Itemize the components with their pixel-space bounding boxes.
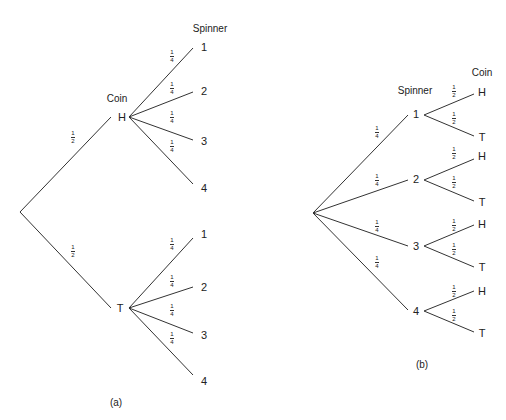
- prob-4t-b: 12: [452, 308, 456, 322]
- prob-t-a: 12: [71, 244, 75, 258]
- prob-3-b: 14: [375, 219, 379, 233]
- leaf-t3-a: 3: [201, 329, 207, 341]
- prob-h3-a: 14: [170, 110, 174, 124]
- prob-1h-b: 12: [452, 84, 456, 98]
- prob-1t-b: 12: [452, 111, 456, 125]
- leaf-4t-b: T: [479, 327, 486, 339]
- prob-3t-b: 12: [452, 242, 456, 256]
- node-3-b: 3: [413, 240, 419, 252]
- leaf-h4-a: 4: [201, 182, 207, 194]
- spinner-header-b: Spinner: [398, 85, 432, 96]
- leaf-t4-a: 4: [201, 375, 207, 387]
- leaf-3h-b: H: [478, 218, 486, 230]
- leaf-h2-a: 2: [201, 85, 207, 97]
- prob-4-b: 14: [375, 255, 379, 269]
- leaf-1t-b: T: [479, 131, 486, 143]
- node-2-b: 2: [413, 173, 419, 185]
- prob-h-a: 12: [71, 130, 75, 144]
- leaf-h1-a: 1: [201, 41, 207, 53]
- coin-header-b: Coin: [472, 67, 493, 78]
- prob-1-b: 14: [375, 125, 379, 139]
- prob-t1-a: 14: [170, 237, 174, 251]
- prob-4h-b: 12: [452, 284, 456, 298]
- coin-header-a: Coin: [107, 93, 128, 104]
- prob-2h-b: 12: [452, 146, 456, 160]
- caption-b: (b): [416, 359, 428, 370]
- prob-h4-a: 14: [170, 139, 174, 153]
- caption-a: (a): [110, 397, 122, 408]
- leaf-t2-a: 2: [201, 281, 207, 293]
- prob-2t-b: 12: [452, 175, 456, 189]
- node-1-b: 1: [413, 108, 419, 120]
- leaf-4h-b: H: [478, 285, 486, 297]
- spinner-header-a: Spinner: [193, 23, 227, 34]
- prob-h1-a: 14: [170, 49, 174, 63]
- node-4-b: 4: [413, 305, 419, 317]
- leaf-h3-a: 3: [201, 135, 207, 147]
- leaf-2t-b: T: [479, 196, 486, 208]
- node-h-a: H: [118, 111, 126, 123]
- prob-t3-a: 14: [170, 303, 174, 317]
- prob-2-b: 14: [375, 173, 379, 187]
- prob-h2-a: 14: [170, 81, 174, 95]
- leaf-1h-b: H: [478, 86, 486, 98]
- prob-t2-a: 14: [170, 274, 174, 288]
- leaf-t1-a: 1: [201, 228, 207, 240]
- tree-lines: [0, 0, 506, 420]
- leaf-2h-b: H: [478, 150, 486, 162]
- node-t-a: T: [117, 302, 124, 314]
- leaf-3t-b: T: [479, 261, 486, 273]
- prob-3h-b: 12: [452, 218, 456, 232]
- prob-t4-a: 14: [170, 331, 174, 345]
